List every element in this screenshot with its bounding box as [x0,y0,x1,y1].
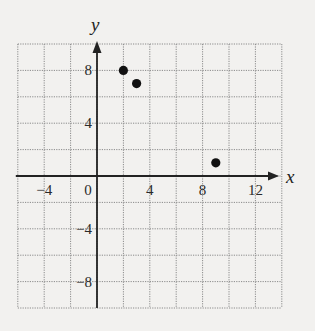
x-tick-label: −4 [36,182,52,198]
coordinate-plane: −40481284−4−8 x y [0,0,315,331]
y-axis-arrow-icon [93,41,102,53]
data-points [119,66,221,168]
x-tick-label: 8 [199,182,207,198]
y-tick-label: 4 [85,115,93,131]
y-tick-label: −4 [76,221,92,237]
x-tick-label: 4 [146,182,154,198]
axes [16,41,279,308]
y-axis-label: y [89,14,100,35]
x-tick-label: 12 [248,182,263,198]
x-axis-arrow-icon [268,172,279,181]
y-tick-label: 8 [85,62,93,78]
y-tick-label: −8 [76,274,92,290]
x-tick-label: 0 [84,182,92,198]
data-point [211,158,220,167]
data-point [132,79,141,88]
x-axis-label: x [285,166,295,187]
data-point [119,66,128,75]
